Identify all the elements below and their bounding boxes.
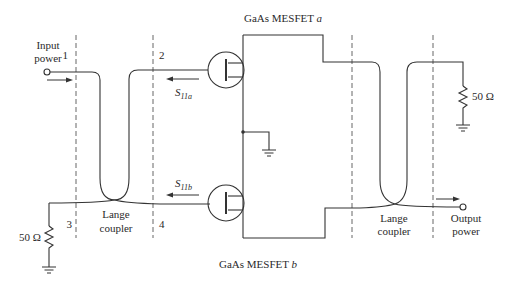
port-4-label: 4	[159, 218, 165, 230]
output-power-label-line1: Output	[451, 212, 482, 224]
input-power-label-line1: Input	[36, 39, 59, 51]
left-resistor-label: 50 Ω	[19, 231, 41, 243]
left-coupler-label-line2: coupler	[100, 222, 133, 234]
port-1-label: 1	[63, 49, 69, 61]
mesfet-b-title: GaAs MESFET b	[219, 258, 298, 270]
left-resistor-icon	[45, 226, 53, 267]
port-2-label: 2	[159, 49, 165, 61]
right-coupler-label-line2: coupler	[378, 225, 411, 237]
left-coupler-label-line1: Lange	[102, 208, 130, 220]
ground-stub	[243, 132, 269, 150]
s11a-arrow-head-icon	[166, 77, 173, 82]
output-port-terminal	[460, 204, 466, 210]
output-arrow-head-icon	[453, 197, 460, 202]
balanced-amplifier-diagram: GaAs MESFET a GaAs MESFET b 1 2 3 4 Inpu…	[0, 0, 508, 289]
port-3-label: 3	[67, 218, 73, 230]
right-resistor-icon	[459, 86, 467, 125]
mesfet-a-drain-line	[243, 35, 460, 207]
mesfet-a-icon	[208, 52, 244, 88]
input-power-label-line2: power	[34, 52, 62, 64]
s11b-arrow-head-icon	[166, 193, 173, 198]
mesfet-a-title: GaAs MESFET a	[244, 12, 323, 24]
output-power-label-line2: power	[452, 225, 480, 237]
input-port-terminal	[44, 69, 50, 75]
right-resistor-label: 50 Ω	[472, 90, 494, 102]
right-coupler-label-line1: Lange	[380, 212, 408, 224]
right-ground-icon	[456, 125, 470, 131]
ground-icon	[262, 150, 276, 156]
mesfet-b-icon	[208, 185, 244, 221]
left-ground-icon	[42, 267, 56, 273]
input-arrow-head-icon	[66, 78, 73, 83]
s11a-label: S11a	[175, 86, 192, 101]
s11b-label: S11b	[175, 177, 192, 192]
